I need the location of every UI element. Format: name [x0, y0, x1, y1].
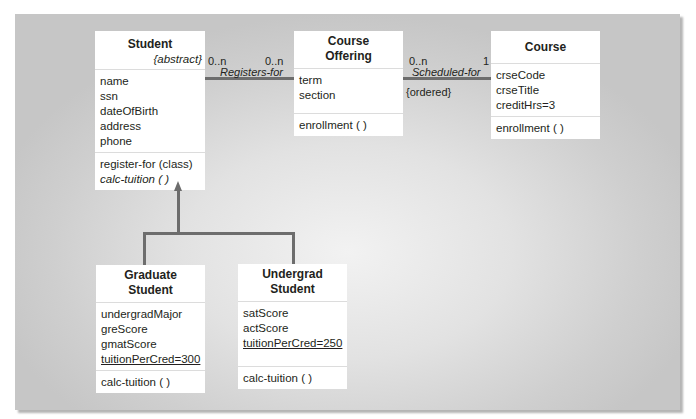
- class-name-line1: Graduate: [96, 268, 205, 283]
- association-name: Scheduled-for: [412, 66, 481, 78]
- operation: register-for (class): [100, 157, 200, 172]
- generalization-branch-graduate[interactable]: [143, 232, 146, 265]
- attribute: satScore: [243, 306, 342, 321]
- class-course-offering[interactable]: Course Offering term section enrollment …: [294, 31, 403, 136]
- attribute: undergradMajor: [101, 307, 200, 322]
- operations-section: enrollment ( ): [491, 117, 600, 139]
- operation: calc-tuition ( ): [243, 371, 342, 386]
- operation: calc-tuition ( ): [101, 375, 200, 390]
- attributes-section: undergradMajor greScore gmatScore tuitio…: [96, 303, 205, 371]
- class-attribute: tuitionPerCred=300: [101, 352, 200, 367]
- class-name-line1: Course: [294, 34, 403, 49]
- class-attribute: tuitionPerCred=250: [243, 336, 342, 351]
- class-name: Course: [491, 40, 600, 55]
- class-graduate-student-header: Graduate Student: [96, 265, 205, 303]
- attribute: name: [100, 74, 200, 89]
- class-course-header: Course: [491, 31, 600, 64]
- operations-section: calc-tuition ( ): [96, 371, 205, 393]
- multiplicity-right: 1: [483, 55, 489, 67]
- constraint-ordered: {ordered}: [406, 86, 451, 98]
- generalization-branch-undergrad[interactable]: [292, 232, 295, 264]
- class-name-line2: Offering: [294, 49, 403, 64]
- generalization-crossbar[interactable]: [143, 232, 295, 235]
- class-undergrad-student[interactable]: Undergrad Student satScore actScore tuit…: [238, 264, 347, 389]
- attributes-section: name ssn dateOfBirth address phone: [95, 70, 205, 153]
- attribute: creditHrs=3: [496, 98, 595, 113]
- class-student-header: Student {abstract}: [95, 31, 205, 70]
- attributes-section: satScore actScore tuitionPerCred=250: [238, 302, 347, 367]
- class-name-line2: Student: [96, 283, 205, 298]
- attribute: term: [299, 73, 398, 88]
- class-name: Student: [95, 37, 205, 52]
- attribute: crseCode: [496, 68, 595, 83]
- class-course-offering-header: Course Offering: [294, 31, 403, 69]
- operations-section: enrollment ( ): [294, 114, 403, 136]
- attribute: actScore: [243, 321, 342, 336]
- operations-section: register-for (class) calc-tuition ( ): [95, 153, 205, 190]
- attribute: crseTitle: [496, 83, 595, 98]
- generalization-stem[interactable]: [177, 189, 180, 233]
- class-undergrad-student-header: Undergrad Student: [238, 264, 347, 302]
- class-name-line1: Undergrad: [238, 267, 347, 282]
- association-name: Registers-for: [220, 66, 283, 78]
- attributes-section: crseCode crseTitle creditHrs=3: [491, 64, 600, 117]
- class-graduate-student[interactable]: Graduate Student undergradMajor greScore…: [96, 265, 205, 393]
- attribute: gmatScore: [101, 337, 200, 352]
- class-student[interactable]: Student {abstract} name ssn dateOfBirth …: [95, 31, 205, 190]
- attribute: greScore: [101, 322, 200, 337]
- operations-section: calc-tuition ( ): [238, 367, 347, 389]
- attribute: phone: [100, 134, 200, 149]
- attribute: dateOfBirth: [100, 104, 200, 119]
- attribute: section: [299, 88, 398, 103]
- attribute: address: [100, 119, 200, 134]
- class-name-line2: Student: [238, 282, 347, 297]
- attributes-section: term section: [294, 69, 403, 114]
- operation-abstract: calc-tuition ( ): [100, 172, 200, 187]
- attribute: ssn: [100, 89, 200, 104]
- stereotype-abstract: {abstract}: [95, 52, 205, 67]
- operation: enrollment ( ): [299, 118, 398, 133]
- operation: enrollment ( ): [496, 121, 595, 136]
- class-course[interactable]: Course crseCode crseTitle creditHrs=3 en…: [491, 31, 600, 139]
